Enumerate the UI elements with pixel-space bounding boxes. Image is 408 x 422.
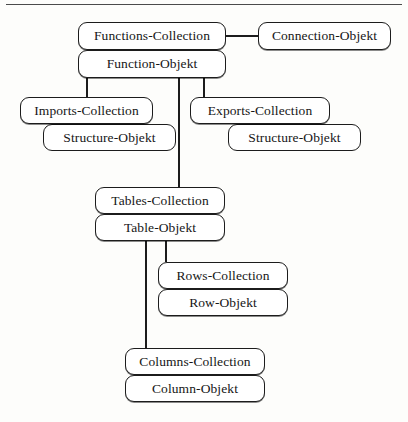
node-table-objekt[interactable]: Table-Objekt bbox=[95, 214, 225, 241]
node-label: Function-Objekt bbox=[107, 57, 198, 71]
node-connection-objekt[interactable]: Connection-Objekt bbox=[258, 22, 391, 50]
node-row-objekt[interactable]: Row-Objekt bbox=[158, 289, 288, 316]
page-top-rule bbox=[6, 4, 402, 5]
node-label: Exports-Collection bbox=[208, 104, 313, 118]
node-label: Table-Objekt bbox=[124, 221, 196, 235]
edge-function-to-imports-vertical bbox=[86, 78, 88, 97]
node-imports-collection[interactable]: Imports-Collection bbox=[20, 97, 153, 124]
node-column-objekt[interactable]: Column-Objekt bbox=[125, 375, 265, 402]
edge-functions-to-connection bbox=[226, 35, 258, 37]
node-label: Rows-Collection bbox=[177, 269, 270, 283]
node-rows-collection[interactable]: Rows-Collection bbox=[158, 262, 288, 289]
node-label: Imports-Collection bbox=[34, 104, 139, 118]
node-label: Functions-Collection bbox=[94, 29, 210, 43]
node-imports-structure-objekt[interactable]: Structure-Objekt bbox=[43, 124, 176, 151]
node-columns-collection[interactable]: Columns-Collection bbox=[125, 348, 265, 375]
node-exports-structure-objekt[interactable]: Structure-Objekt bbox=[228, 124, 361, 151]
edge-table-to-rows-vertical bbox=[165, 241, 167, 262]
node-functions-collection[interactable]: Functions-Collection bbox=[78, 22, 226, 50]
node-function-objekt[interactable]: Function-Objekt bbox=[78, 50, 226, 78]
node-label: Tables-Collection bbox=[111, 194, 208, 208]
edge-function-to-exports-vertical bbox=[203, 78, 205, 97]
node-label: Column-Objekt bbox=[152, 382, 238, 396]
node-label: Structure-Objekt bbox=[248, 131, 340, 145]
node-label: Connection-Objekt bbox=[272, 29, 377, 43]
diagram-canvas: Functions-Collection Connection-Objekt F… bbox=[0, 0, 408, 422]
edge-function-to-tables-vertical bbox=[178, 78, 180, 187]
edge-table-to-columns-vertical bbox=[145, 241, 147, 348]
node-exports-collection[interactable]: Exports-Collection bbox=[190, 97, 330, 124]
node-label: Row-Objekt bbox=[189, 296, 257, 310]
node-tables-collection[interactable]: Tables-Collection bbox=[95, 187, 225, 214]
node-label: Columns-Collection bbox=[139, 355, 250, 369]
node-label: Structure-Objekt bbox=[63, 131, 155, 145]
